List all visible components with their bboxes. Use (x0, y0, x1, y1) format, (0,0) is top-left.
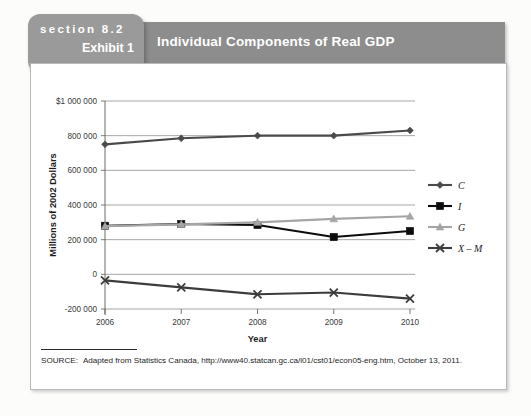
y-tick-label: $1 000 000 (56, 97, 97, 106)
series-1 (102, 127, 414, 148)
x-axis-title: Year (248, 334, 268, 344)
x-tick-label: 2009 (325, 318, 344, 327)
source-label: SOURCE: (41, 356, 78, 365)
x-tick-label: 2007 (172, 318, 191, 327)
exhibit-label: Exhibit 1 (82, 41, 134, 55)
exhibit-title: Individual Components of Real GDP (157, 34, 395, 49)
legend-item-2: I (428, 201, 462, 212)
y-tick-label: 800 000 (67, 132, 97, 141)
series-4 (101, 276, 414, 302)
x-tick-label: 2008 (248, 318, 267, 327)
source-text: Adapted from Statistics Canada, http://w… (83, 356, 462, 365)
exhibit-banner: Individual Components of Real GDP (112, 22, 505, 64)
legend-label: C (458, 180, 465, 191)
exhibit-page: Individual Components of Real GDP sectio… (0, 0, 531, 416)
x-tick-label: 2010 (401, 318, 420, 327)
y-tick-label: -200 000 (65, 305, 98, 314)
y-tick-label: 0 (92, 270, 97, 279)
legend-label: G (458, 222, 465, 233)
legend-item-3: G (428, 222, 465, 233)
y-tick-label: 600 000 (67, 166, 97, 175)
x-tick-label: 2006 (96, 318, 115, 327)
y-axis-title: Millions of 2002 Dollars (48, 153, 58, 256)
source-note: SOURCE:Adapted from Statistics Canada, h… (41, 355, 471, 367)
y-tick-label: 200 000 (67, 236, 97, 245)
source-divider (41, 349, 137, 350)
legend-label: X – M (457, 243, 483, 254)
legend-item-1: C (428, 180, 465, 191)
legend-item-4: X – M (428, 243, 483, 254)
y-tick-label: 400 000 (67, 201, 97, 210)
section-label: section 8.2 (40, 23, 125, 35)
line-chart: -200 0000200 000400 000600 000800 000$1 … (30, 63, 505, 388)
legend-label: I (457, 201, 462, 212)
